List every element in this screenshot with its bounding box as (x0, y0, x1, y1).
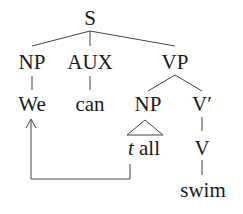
leaf-swim: swim (180, 178, 226, 202)
node-vp-np: NP (135, 92, 162, 116)
trace-t: t (128, 136, 135, 160)
leaf-can: can (75, 92, 105, 116)
node-v: V (194, 136, 209, 160)
node-aux: AUX (67, 50, 113, 74)
edge-s-np (32, 31, 90, 46)
edge-vp-vbar (175, 75, 202, 91)
node-v-bar: V′ (192, 92, 212, 116)
leaf-we: We (18, 92, 45, 116)
np-triangle (127, 120, 163, 135)
movement-arrow (31, 120, 130, 179)
edge-vp-np (148, 75, 175, 91)
leaf-all: all (139, 136, 160, 160)
syntax-tree: S NP AUX VP We can NP V′ t all V swim (0, 0, 243, 214)
edge-s-vp (90, 31, 175, 46)
node-s: S (84, 6, 96, 30)
node-np: NP (19, 50, 46, 74)
node-vp: VP (162, 50, 189, 74)
